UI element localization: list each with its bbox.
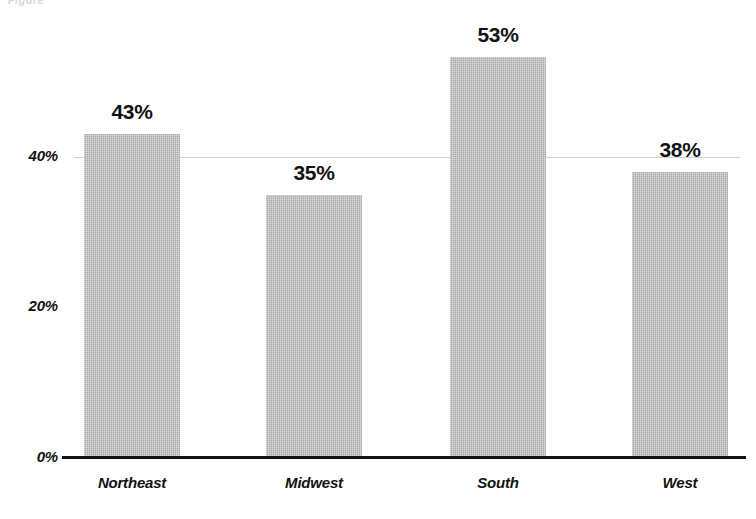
bar-south[interactable] [450,57,546,456]
bar-northeast[interactable] [84,134,180,456]
y-axis-tick-0: 0% [0,448,58,465]
bar-west[interactable] [632,172,728,456]
bar-midwest[interactable] [266,195,362,456]
bar-value-south: 53% [450,23,546,47]
x-axis-label-midwest: Midwest [239,474,389,491]
y-axis-tick-20: 20% [0,297,58,314]
bar-chart: Figure 40% 20% 0% 43% 35% 53% 38% Northe… [0,0,756,519]
plot-area: 40% 20% 0% 43% 35% 53% 38% Northeast Mid… [0,0,756,519]
bar-value-midwest: 35% [266,161,362,185]
x-axis-label-west: West [605,474,755,491]
y-axis-tick-40: 40% [0,147,58,164]
x-axis-label-south: South [423,474,573,491]
x-axis-baseline [62,456,746,459]
bar-value-northeast: 43% [84,100,180,124]
x-axis-label-northeast: Northeast [57,474,207,491]
bar-value-west: 38% [632,138,728,162]
